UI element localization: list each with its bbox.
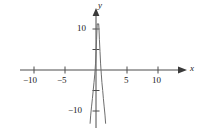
x-tick-label-neg10: −10 bbox=[23, 76, 37, 85]
y-tick-label-pos10: 10 bbox=[77, 24, 86, 33]
x-axis-name-label: x bbox=[190, 64, 194, 73]
coordinate-plot bbox=[0, 0, 202, 135]
graph-figure: −10 −5 5 10 10 −10 y x bbox=[0, 0, 202, 135]
x-tick-label-neg5: −5 bbox=[57, 76, 67, 85]
x-axis-arrow-icon bbox=[178, 67, 187, 74]
y-tick-label-neg10: −10 bbox=[68, 106, 82, 115]
x-tick-label-pos5: 5 bbox=[124, 76, 129, 85]
x-tick-label-pos10: 10 bbox=[152, 76, 161, 85]
y-axis-name-label: y bbox=[98, 1, 102, 10]
curve-right-branch bbox=[99, 24, 106, 123]
